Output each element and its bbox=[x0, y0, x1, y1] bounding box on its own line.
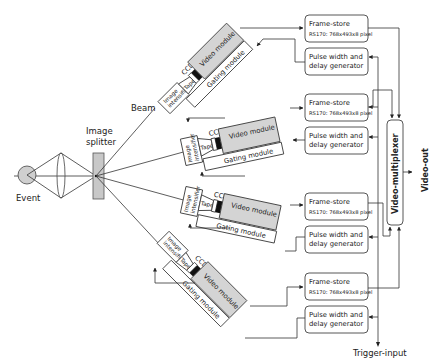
optics-group: Event Image splitter Beam bbox=[14, 103, 187, 245]
pulse-generator-3: Pulse width and delay generator bbox=[305, 226, 368, 253]
image-splitter-label-2: splitter bbox=[86, 137, 116, 147]
gating-1-to-intensifier bbox=[188, 118, 225, 122]
pulse-generator-label: delay generator bbox=[309, 240, 364, 248]
beam-line-3 bbox=[96, 176, 187, 201]
video-multiplexer-label: Video-multiplexer bbox=[391, 133, 400, 214]
frame-store-spec: RS170: 768x493x8 pixel bbox=[309, 110, 372, 117]
ray bbox=[27, 153, 61, 175]
pulse-generator-label: Pulse width and bbox=[309, 132, 363, 140]
pulse-generator-label: Pulse width and bbox=[309, 231, 363, 239]
pulse-3-to-gating bbox=[285, 237, 305, 251]
camera-channel-2: Image intensifier Taper CCD Video module… bbox=[180, 115, 284, 174]
pulse-generator-1: Pulse width and delay generator bbox=[305, 48, 368, 75]
camera-channel-1: Image intensifier Taper CCD Video module… bbox=[153, 23, 253, 123]
pulse-generator-label: delay generator bbox=[309, 141, 364, 149]
event-label: Event bbox=[16, 193, 41, 203]
frame-store-spec: RS170: 768x493x8 pixel bbox=[309, 209, 372, 216]
frame-store-title: Frame-store bbox=[309, 198, 350, 206]
camera-channel-4: Image intensifier Taper CCD Video module… bbox=[147, 227, 247, 327]
beam-line-2 bbox=[96, 151, 187, 176]
image-splitter-icon bbox=[93, 153, 104, 199]
lens-icon bbox=[57, 153, 65, 198]
pulse-generator-label: Pulse width and bbox=[309, 311, 363, 319]
trigger-input-label: Trigger-input bbox=[352, 348, 407, 358]
camera-channel-3: Image intensifier Taper CCD Video module… bbox=[178, 183, 282, 243]
pulse-generator-4: Pulse width and delay generator bbox=[305, 306, 368, 333]
frame-store-title: Frame-store bbox=[309, 20, 350, 28]
video-4-to-frame-store bbox=[250, 287, 303, 306]
trigger-arrowhead bbox=[376, 342, 380, 347]
image-splitter-label-1: Image bbox=[86, 126, 113, 136]
frame-store-4: Frame-store RS170: 768x493x8 pixel bbox=[305, 273, 372, 300]
multi-channel-gated-camera-diagram: Event Image splitter Beam Image intensif… bbox=[0, 0, 438, 363]
frame-store-title: Frame-store bbox=[309, 278, 350, 286]
ray bbox=[61, 176, 96, 198]
beam-label: Beam bbox=[131, 103, 156, 113]
pulse-generator-label: delay generator bbox=[309, 62, 364, 70]
frame-store-spec: RS170: 768x493x8 pixel bbox=[309, 31, 372, 38]
frame-store-3: Frame-store RS170: 768x493x8 pixel bbox=[305, 193, 372, 220]
frame-store-1: Frame-store RS170: 768x493x8 pixel bbox=[305, 15, 372, 42]
pulse-4-to-gating bbox=[245, 318, 305, 338]
video-multiplexer: Video-multiplexer bbox=[387, 120, 403, 225]
frame-store-title: Frame-store bbox=[309, 99, 350, 107]
frame-store-spec: RS170: 768x493x8 pixel bbox=[309, 289, 372, 296]
pulse-generator-label: delay generator bbox=[309, 320, 364, 328]
ray bbox=[61, 153, 96, 176]
beam-line-4 bbox=[96, 176, 160, 245]
pulse-generator-label: Pulse width and bbox=[309, 53, 363, 61]
gating-2-to-intensifier bbox=[202, 172, 245, 176]
frame-store-2: Frame-store RS170: 768x493x8 pixel bbox=[305, 94, 372, 121]
video-out-label: Video-out bbox=[421, 148, 430, 192]
pulse-1-to-gating bbox=[257, 39, 305, 62]
pulse-generator-2: Pulse width and delay generator bbox=[305, 127, 368, 154]
